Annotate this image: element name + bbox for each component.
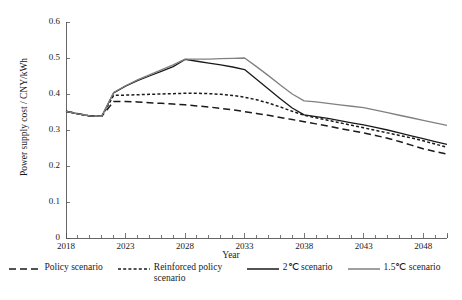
y-axis-title: Power supply cost / CNY/kWh xyxy=(19,47,29,187)
legend-item[interactable]: 2℃ scenario xyxy=(246,262,333,275)
y-tick-label: 0.6 xyxy=(30,16,60,26)
legend-label: 2℃ scenario xyxy=(283,262,333,273)
x-tick-label: 2043 xyxy=(344,241,384,251)
x-tick-label: 2028 xyxy=(165,241,205,251)
y-tick-label: 0.2 xyxy=(30,160,60,170)
legend-item[interactable]: Reinforced policy scenario xyxy=(117,262,232,284)
legend-item[interactable]: Policy scenario xyxy=(8,262,103,275)
series-line xyxy=(66,102,447,155)
chart-series xyxy=(66,58,447,154)
y-tick-label: 0.3 xyxy=(30,124,60,134)
x-tick-label: 2038 xyxy=(284,241,324,251)
legend-line-swatch-icon xyxy=(246,263,280,275)
x-tick-label: 2033 xyxy=(225,241,265,251)
y-tick-label: 0.1 xyxy=(30,196,60,206)
legend-label: Policy scenario xyxy=(45,262,103,273)
legend-line-swatch-icon xyxy=(8,263,42,275)
legend-label: Reinforced policy scenario xyxy=(154,262,232,284)
chart-legend: Policy scenarioReinforced policy scenari… xyxy=(0,262,462,284)
y-tick-label: 0.5 xyxy=(30,52,60,62)
legend-line-swatch-icon xyxy=(347,263,381,275)
chart-figure: Power supply cost / CNY/kWh Year 00.10.2… xyxy=(0,0,462,300)
series-line xyxy=(66,58,447,125)
series-line xyxy=(66,59,447,144)
y-tick-label: 0.4 xyxy=(30,88,60,98)
legend-item[interactable]: 1.5℃ scenario xyxy=(347,262,441,275)
legend-line-swatch-icon xyxy=(117,263,151,275)
x-axis-title: Year xyxy=(0,250,462,260)
legend-label: 1.5℃ scenario xyxy=(384,262,441,273)
x-tick-label: 2023 xyxy=(106,241,146,251)
x-tick-label: 2018 xyxy=(46,241,86,251)
x-tick-label: 2048 xyxy=(403,241,443,251)
